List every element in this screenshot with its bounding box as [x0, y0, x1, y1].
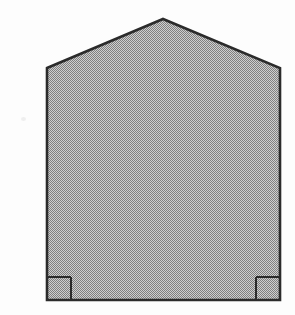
figure-canvas: [0, 0, 295, 315]
house-pentagon-shape: [47, 19, 280, 300]
figure-svg: [0, 0, 295, 315]
